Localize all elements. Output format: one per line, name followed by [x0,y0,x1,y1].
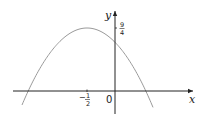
vertex-x-denominator: 2 [86,100,90,108]
vertex-x-numerator: 1 [86,92,90,100]
y-axis-label: y [104,9,112,22]
max-y-denominator: 4 [120,29,124,37]
x-axis-label: x [189,93,196,106]
max-y-numerator: 9 [120,21,124,29]
vertex-x-sign: − [79,93,86,102]
function-graph: x y 0 − 1 2 9 4 [0,0,205,120]
origin-label: 0 [106,94,112,105]
